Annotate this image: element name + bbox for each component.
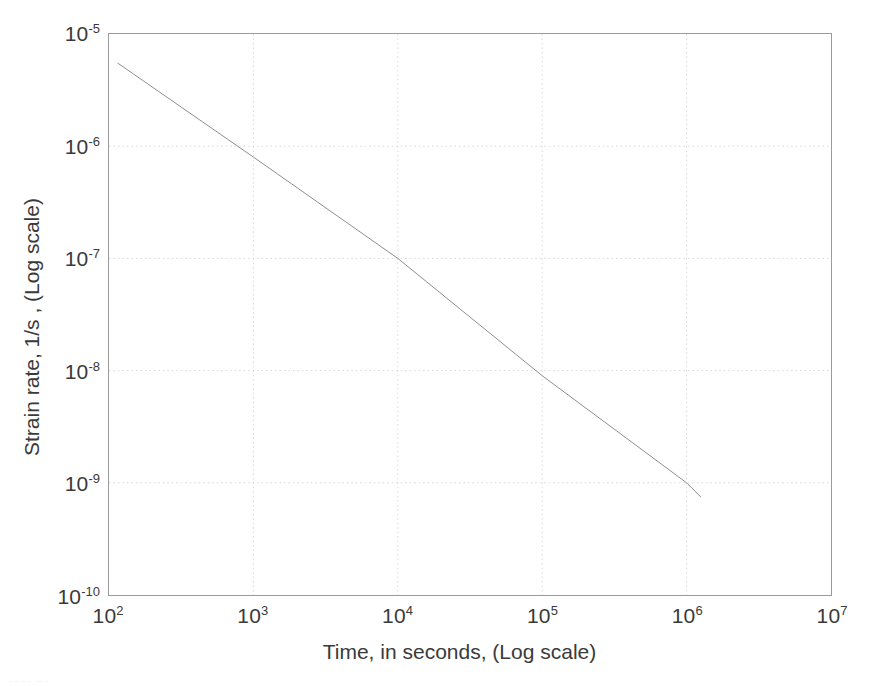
y-axis-tick-labels: 10-510-610-710-810-910-10 (0, 0, 100, 686)
x-tick-label: 107 (817, 603, 848, 628)
y-tick-label: 10-7 (65, 246, 100, 271)
y-tick-exponent: -8 (88, 358, 100, 373)
x-tick-exponent: 6 (695, 603, 702, 618)
x-tick-exponent: 7 (840, 603, 847, 618)
y-tick-mantissa: 10 (65, 134, 89, 157)
x-tick-exponent: 2 (116, 603, 123, 618)
y-axis-title: Strain rate, 1/s , (Log scale) (20, 47, 44, 607)
x-tick-mantissa: 10 (382, 604, 406, 627)
y-tick-exponent: -5 (88, 21, 100, 36)
plot-area (108, 33, 832, 596)
y-tick-label: 10-6 (65, 133, 100, 158)
y-tick-exponent: -6 (88, 133, 100, 148)
x-tick-exponent: 3 (261, 603, 268, 618)
x-tick-label: 102 (93, 603, 124, 628)
x-tick-mantissa: 10 (817, 604, 841, 627)
x-tick-exponent: 5 (551, 603, 558, 618)
x-tick-mantissa: 10 (672, 604, 696, 627)
x-tick-exponent: 4 (406, 603, 413, 618)
x-axis-title-text: Time, in seconds, (Log scale) (323, 640, 597, 664)
x-tick-mantissa: 10 (93, 604, 117, 627)
figure-canvas: 10-510-610-710-810-910-10 10210310410510… (0, 0, 869, 686)
x-axis-tick-labels: 102103104105106107 (0, 603, 869, 637)
data-series-layer (109, 34, 831, 595)
x-tick-mantissa: 10 (527, 604, 551, 627)
scan-artifact: - - - - -- - (8, 674, 428, 684)
y-tick-exponent: -9 (88, 471, 100, 486)
x-tick-label: 104 (382, 603, 413, 628)
strain-rate-line (118, 63, 701, 497)
y-tick-label: 10-9 (65, 471, 100, 496)
y-tick-label: 10-5 (65, 21, 100, 46)
y-tick-mantissa: 10 (65, 22, 89, 45)
x-tick-label: 106 (672, 603, 703, 628)
y-tick-mantissa: 10 (65, 359, 89, 382)
x-tick-mantissa: 10 (237, 604, 261, 627)
x-tick-label: 105 (527, 603, 558, 628)
x-tick-label: 103 (237, 603, 268, 628)
y-tick-mantissa: 10 (65, 247, 89, 270)
y-tick-exponent: -10 (81, 584, 100, 599)
y-tick-exponent: -7 (88, 246, 100, 261)
y-tick-mantissa: 10 (65, 472, 89, 495)
y-tick-label: 10-8 (65, 358, 100, 383)
x-axis-title: Time, in seconds, (Log scale) (0, 640, 869, 664)
